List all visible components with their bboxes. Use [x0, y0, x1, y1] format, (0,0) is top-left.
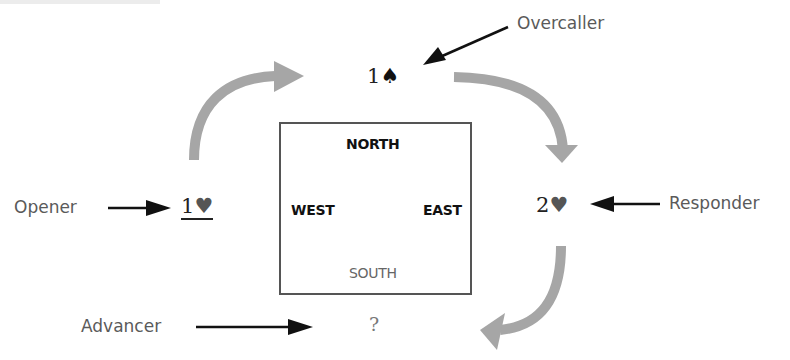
pointer-head-opener: [146, 200, 171, 216]
bid-advancer: ?: [369, 313, 379, 335]
bid-overcaller: 1♠: [367, 64, 399, 88]
label-responder: Responder: [669, 193, 760, 213]
pointer-line-overcaller: [440, 27, 508, 57]
heart-icon: ♥: [549, 193, 568, 217]
seat-west: WEST: [291, 202, 334, 218]
bid-opener: 1♥: [181, 195, 213, 220]
seat-south: SOUTH: [349, 265, 397, 281]
pointer-head-advancer: [288, 319, 313, 335]
spade-icon: ♠: [380, 64, 399, 88]
bid-responder: 2♥: [536, 193, 568, 217]
pointer-head-overcaller: [423, 47, 446, 65]
flow-arrow-opener-to-overcaller: [194, 76, 275, 160]
heart-icon: ♥: [194, 194, 213, 218]
flow-arrowhead-2: [545, 145, 578, 163]
seat-north: NORTH: [346, 136, 400, 152]
bid-level: 1: [367, 64, 380, 88]
bid-level: 2: [536, 193, 549, 217]
flow-arrow-responder-to-advancer: [500, 246, 561, 330]
pointer-head-responder: [590, 196, 614, 212]
label-overcaller: Overcaller: [517, 13, 604, 33]
seat-east: EAST: [423, 202, 462, 218]
bid-level: ?: [369, 313, 379, 335]
label-opener: Opener: [14, 197, 77, 217]
flow-arrowhead-1: [274, 61, 304, 92]
label-advancer: Advancer: [81, 316, 161, 336]
bid-level: 1: [181, 194, 194, 218]
